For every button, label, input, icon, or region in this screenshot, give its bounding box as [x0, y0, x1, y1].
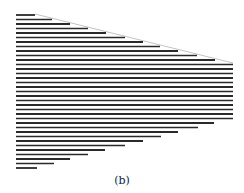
figure-caption: (b) [0, 174, 244, 187]
horizontal-lines-group [16, 15, 233, 168]
line-pattern-figure [0, 0, 244, 193]
